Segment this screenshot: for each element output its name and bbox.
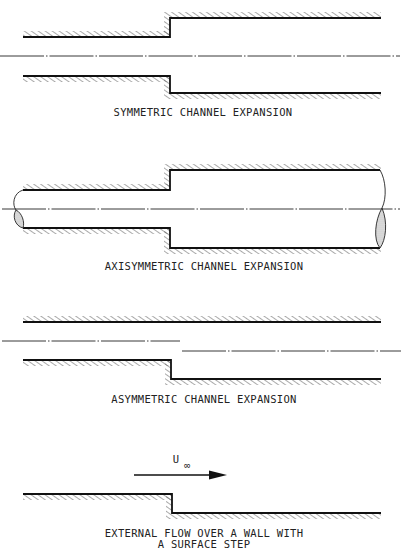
panel-axisymmetric-expansion: AXISYMMETRIC CHANNEL EXPANSION [2, 164, 400, 272]
caption-axisymmetric: AXISYMMETRIC CHANNEL EXPANSION [105, 260, 304, 272]
right-section-cut [376, 208, 386, 248]
velocity-subscript: ∞ [184, 459, 191, 471]
flow-geometry-diagram: SYMMETRIC CHANNEL EXPANSION AXISYMMETRIC… [0, 0, 406, 550]
panel-symmetric-expansion: SYMMETRIC CHANNEL EXPANSION [0, 12, 400, 118]
left-break-line [14, 190, 23, 210]
velocity-label: U [173, 453, 180, 465]
caption-external-line2: A SURFACE STEP [158, 538, 251, 550]
flow-arrow-head-icon [209, 471, 227, 480]
left-section-cut [14, 210, 23, 228]
caption-asymmetric: ASYMMETRIC CHANNEL EXPANSION [111, 393, 296, 405]
caption-symmetric: SYMMETRIC CHANNEL EXPANSION [114, 106, 293, 118]
panel-asymmetric-expansion: ASYMMETRIC CHANNEL EXPANSION [2, 316, 401, 405]
panel-external-flow-step: U ∞ EXTERNAL FLOW OVER A WALL WITH A SUR… [23, 453, 381, 550]
right-break-line [380, 170, 385, 208]
